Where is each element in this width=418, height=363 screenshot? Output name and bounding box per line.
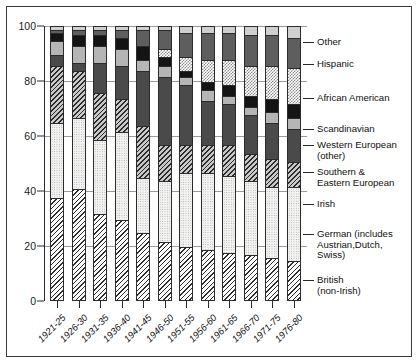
bar-segment — [266, 123, 278, 159]
bar-segment — [202, 90, 214, 101]
bar-segment — [266, 27, 278, 35]
bar-segment — [51, 123, 63, 197]
y-tick-mark — [37, 26, 44, 27]
plot-area: 0204060801001921-251926-301931-351936-40… — [45, 26, 307, 301]
bar-segment — [245, 66, 257, 96]
bar-segment — [73, 30, 85, 36]
legend-leader-line — [303, 234, 314, 235]
bar-column[interactable] — [179, 26, 193, 301]
legend-leader-line — [303, 172, 314, 173]
bar-segment — [159, 77, 171, 146]
legend-leader-line — [303, 280, 314, 281]
bar-segment — [180, 27, 192, 33]
y-tick-label: 40 — [24, 185, 36, 197]
bar-segment — [288, 104, 300, 118]
bar-segment — [137, 233, 149, 301]
legend-label: African American — [317, 93, 390, 104]
legend-leader-line — [303, 145, 314, 146]
bar-segment — [116, 99, 128, 132]
x-tick-mark — [122, 301, 123, 308]
bar-segment — [223, 85, 235, 96]
bar-segment — [266, 112, 278, 123]
y-tick-label: 0 — [30, 295, 36, 307]
x-tick-mark — [272, 301, 273, 308]
bar-segment — [116, 132, 128, 220]
bar-segment — [266, 258, 278, 301]
bar-segment — [73, 71, 85, 118]
bar-column[interactable] — [244, 26, 258, 301]
bar-segment — [116, 220, 128, 302]
y-tick-label: 20 — [24, 240, 36, 252]
bar-segment — [137, 30, 149, 47]
bar-segment — [159, 27, 171, 30]
bar-segment — [202, 101, 214, 145]
bar-segment — [137, 126, 149, 178]
y-axis-line — [44, 26, 45, 301]
bar-segment — [202, 173, 214, 250]
legend-label: Southern & Eastern European — [317, 167, 394, 188]
bar-segment — [94, 214, 106, 301]
bar-segment — [159, 145, 171, 181]
bar-segment — [137, 178, 149, 233]
bar-segment — [266, 35, 278, 65]
bar-segment — [51, 27, 63, 30]
bar-segment — [73, 46, 85, 63]
bar-column[interactable] — [93, 26, 107, 301]
legend-label: Irish — [317, 199, 335, 210]
legend-label: Other — [317, 37, 341, 48]
bar-segment — [51, 41, 63, 55]
bar-column[interactable] — [287, 26, 301, 301]
bar-column[interactable] — [136, 26, 150, 301]
bar-segment — [116, 27, 128, 30]
bar-segment — [73, 189, 85, 301]
bar-segment — [51, 30, 63, 33]
bar-segment — [245, 107, 257, 115]
bar-segment — [51, 55, 63, 66]
bar-segment — [51, 198, 63, 302]
bar-segment — [245, 115, 257, 154]
bar-segment — [288, 261, 300, 301]
bar-segment — [223, 60, 235, 85]
bar-segment — [288, 129, 300, 162]
bar-column[interactable] — [265, 26, 279, 301]
chart-figure: 0204060801001921-251926-301931-351936-40… — [6, 6, 412, 357]
x-tick-mark — [294, 301, 295, 308]
bar-segment — [51, 66, 63, 124]
bar-segment — [73, 118, 85, 190]
bar-segment — [288, 187, 300, 261]
bar-segment — [288, 27, 300, 38]
bar-segment — [159, 57, 171, 65]
bar-segment — [223, 176, 235, 253]
bar-segment — [159, 49, 171, 57]
bar-column[interactable] — [201, 26, 215, 301]
bar-segment — [180, 247, 192, 301]
x-tick-mark — [251, 301, 252, 308]
bar-column[interactable] — [115, 26, 129, 301]
bar-segment — [180, 145, 192, 173]
bar-segment — [94, 27, 106, 30]
bar-segment — [94, 35, 106, 46]
y-tick-mark — [37, 81, 44, 82]
x-tick-mark — [208, 301, 209, 308]
bar-column[interactable] — [72, 26, 86, 301]
bar-segment — [94, 93, 106, 140]
bar-segment — [94, 46, 106, 63]
bar-column[interactable] — [158, 26, 172, 301]
x-tick-mark — [143, 301, 144, 308]
legend-label: Scandinavian — [317, 124, 375, 135]
bar-column[interactable] — [222, 26, 236, 301]
bar-segment — [266, 159, 278, 187]
bar-segment — [51, 33, 63, 41]
bar-segment — [159, 181, 171, 242]
bar-column[interactable] — [50, 26, 64, 301]
legend-label: German (includes Austrian,Dutch, Swiss) — [317, 229, 393, 261]
legend-leader-line — [303, 64, 314, 65]
x-tick-mark — [186, 301, 187, 308]
bar-segment — [73, 35, 85, 46]
x-tick-mark — [100, 301, 101, 308]
bar-segment — [116, 49, 128, 66]
legend-leader-line — [303, 204, 314, 205]
bar-segment — [180, 71, 192, 77]
y-tick-mark — [37, 191, 44, 192]
bar-segment — [223, 253, 235, 302]
